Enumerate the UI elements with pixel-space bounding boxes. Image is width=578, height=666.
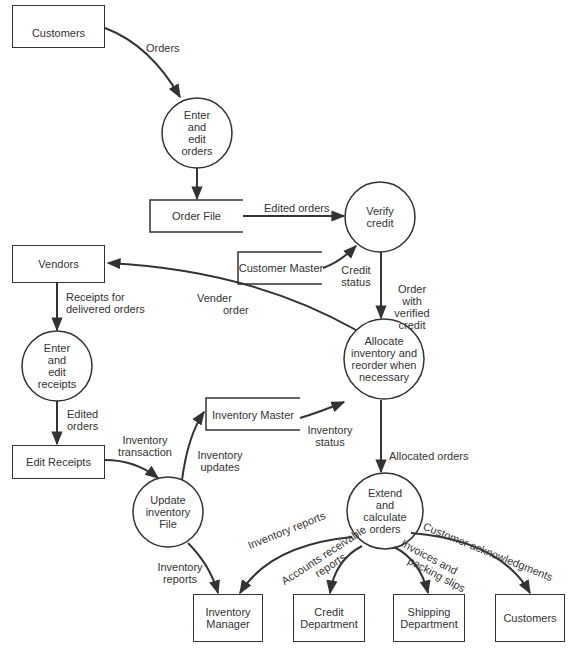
label-verify-credit: Verify credit bbox=[345, 205, 415, 229]
label-inventory-manager: Inventory Manager bbox=[193, 606, 263, 630]
label-customers-bottom: Customers bbox=[495, 612, 565, 624]
label-enter-edit-receipts: Enter and edit receipts bbox=[22, 342, 92, 390]
flow-label-edited-orders-2: Edited orders bbox=[67, 408, 98, 432]
flow-label-allocated-orders: Allocated orders bbox=[389, 450, 469, 462]
label-vendors: Vendors bbox=[12, 258, 105, 270]
flow-label-inventory-status: Inventory status bbox=[306, 424, 354, 448]
flow-label-credit-status: Credit status bbox=[336, 264, 376, 288]
label-enter-edit-orders: Enter and edit orders bbox=[162, 109, 232, 157]
flow-label-inventory-transaction: Inventory transaction bbox=[116, 434, 174, 458]
flow-label-orders: Orders bbox=[146, 42, 180, 54]
flow-label-receipts: Receipts for delivered orders bbox=[66, 291, 145, 315]
label-inventory-master: Inventory Master bbox=[206, 409, 300, 421]
flow-label-vender-order: Vender order bbox=[197, 292, 249, 316]
label-customers-top: Customers bbox=[12, 27, 105, 39]
flow-label-inventory-reports-left: Inventory reports bbox=[155, 561, 205, 585]
label-allocate-inventory: Allocate inventory and reorder when nece… bbox=[344, 335, 424, 383]
flow-label-order-verified-credit: Order with verified credit bbox=[390, 283, 434, 331]
label-update-inventory: Update inventory File bbox=[133, 494, 203, 530]
label-shipping-department: Shipping Department bbox=[393, 606, 465, 630]
flow-label-edited-orders: Edited orders bbox=[264, 202, 329, 214]
flow-label-inventory-updates: Inventory updates bbox=[196, 449, 244, 473]
label-edit-receipts: Edit Receipts bbox=[12, 456, 105, 468]
diagram-canvas bbox=[0, 0, 578, 666]
label-credit-department: Credit Department bbox=[293, 606, 365, 630]
label-order-file: Order File bbox=[150, 210, 243, 222]
label-customer-master: Customer Master bbox=[238, 262, 324, 274]
